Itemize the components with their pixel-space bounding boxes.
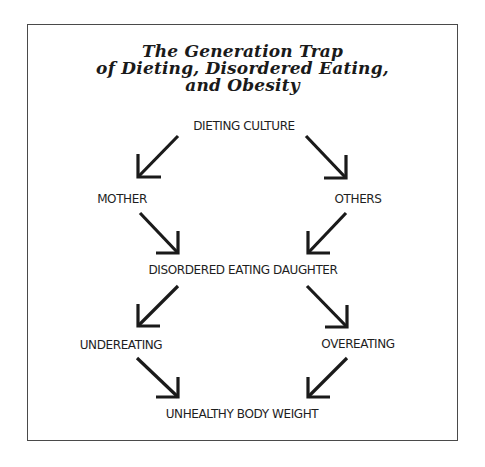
arrow-down-right-icon — [306, 136, 346, 178]
arrow-down-right-icon — [137, 358, 178, 397]
arrow-down-right-icon — [307, 286, 347, 327]
arrow-down-left-icon — [138, 286, 178, 326]
arrow-down-right-icon — [140, 213, 178, 253]
arrow-down-left-icon — [308, 213, 346, 253]
arrows-layer — [0, 0, 485, 467]
arrow-down-left-icon — [308, 358, 347, 397]
arrow-down-left-icon — [138, 136, 178, 177]
